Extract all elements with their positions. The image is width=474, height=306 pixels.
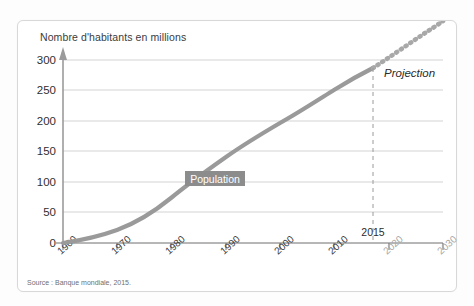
population-line-chart: 300 250 200 150 100 50 0 1960 1970 1980 … bbox=[18, 21, 458, 293]
y-tick-50: 50 bbox=[43, 206, 56, 218]
x-tick-2010: 2010 bbox=[326, 233, 350, 256]
gridlines bbox=[63, 60, 443, 212]
population-badge-label: Population bbox=[190, 173, 240, 185]
divider-2015-label: 2015 bbox=[361, 226, 385, 238]
y-tick-150: 150 bbox=[37, 145, 56, 157]
chart-card: Nombre d'habitants en millions bbox=[17, 20, 457, 292]
y-tick-250: 250 bbox=[37, 84, 56, 96]
y-axis bbox=[59, 47, 67, 243]
chart-page: Nombre d'habitants en millions bbox=[0, 0, 474, 306]
x-tick-1970: 1970 bbox=[109, 233, 133, 256]
source-note: Source : Banque mondiale, 2015. bbox=[27, 279, 131, 286]
x-tick-1960: 1960 bbox=[55, 233, 79, 256]
population-line bbox=[63, 68, 373, 243]
x-tick-1980: 1980 bbox=[163, 233, 187, 256]
divider-2015: 2015 bbox=[361, 68, 385, 243]
x-tick-1990: 1990 bbox=[218, 233, 242, 256]
x-tick-2000: 2000 bbox=[272, 233, 296, 256]
x-tick-2030: 2030 bbox=[435, 233, 458, 256]
population-badge: Population bbox=[185, 171, 245, 186]
x-tick-labels: 1960 1970 1980 1990 2000 2010 2020 2030 bbox=[55, 233, 458, 256]
projection-label: Projection bbox=[384, 67, 435, 79]
y-tick-200: 200 bbox=[37, 115, 56, 127]
projection-line bbox=[373, 21, 443, 68]
y-tick-labels: 300 250 200 150 100 50 0 bbox=[37, 54, 56, 249]
y-tick-300: 300 bbox=[37, 54, 56, 66]
y-tick-100: 100 bbox=[37, 176, 56, 188]
